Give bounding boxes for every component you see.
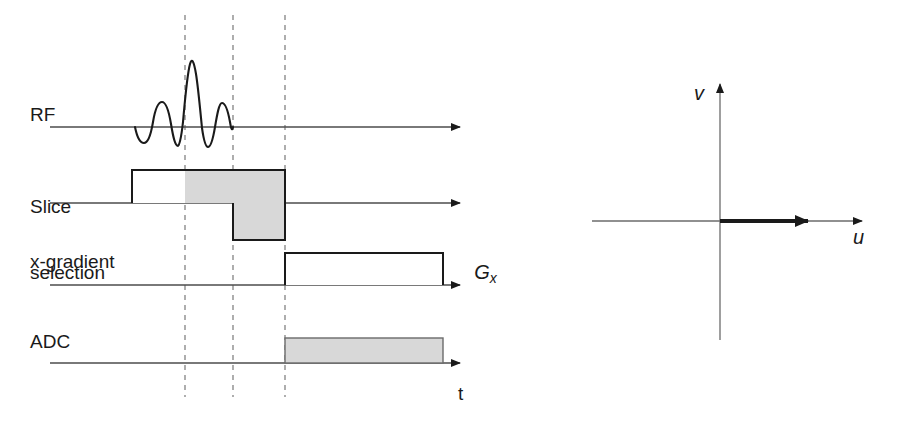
gradient-amplitude-subscript: x [490,270,497,286]
channel-label-adc: ADC [30,331,70,353]
rf-channel [50,61,460,147]
slice-select-positive-block-unshaded [132,170,185,203]
slice-select-rephase-block [233,203,285,240]
uv-vector-plot [592,84,862,340]
slice-selection-channel [50,170,460,240]
figure-canvas [0,0,903,423]
channel-label-rf: RF [30,104,55,126]
uv-plot-v-axis-label: v [694,82,704,104]
adc-channel [50,338,460,363]
gradient-amplitude-label: Gx [452,239,497,311]
rf-sinc-pulse [135,61,233,147]
gradient-amplitude-symbol: G [474,261,490,283]
slice-select-positive-block-shaded [185,170,285,203]
uv-plot-u-axis-label: u [853,226,864,248]
figure-root: RF Slice selection x-gradient ADC t Gx u… [0,0,903,423]
time-axis-label: t [458,383,463,405]
channel-label-slice-selection-line1: Slice [30,196,105,218]
channel-label-slice-selection: Slice selection [30,152,105,328]
channel-label-x-gradient: x-gradient [30,251,115,273]
readout-gradient-block [285,253,443,285]
adc-window-block [285,338,443,363]
